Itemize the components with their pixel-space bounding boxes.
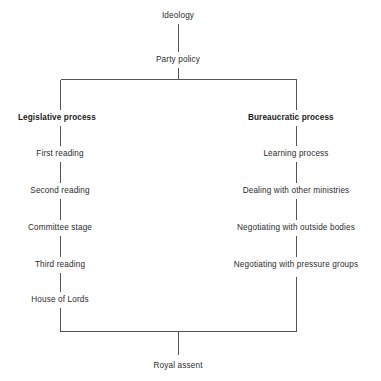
node-second-reading: Second reading — [30, 187, 89, 195]
node-ideology: Ideology — [162, 12, 194, 20]
flowchart-diagram: Ideology Party policy Legislative proces… — [0, 0, 381, 381]
node-bureaucratic-process-heading: Bureaucratic process — [248, 114, 334, 122]
node-negotiating-with-pressure-groups: Negotiating with pressure groups — [234, 261, 359, 269]
node-house-of-lords: House of Lords — [31, 296, 89, 304]
node-first-reading: First reading — [36, 150, 83, 158]
node-negotiating-with-outside-bodies: Negotiating with outside bodies — [237, 224, 355, 232]
node-party-policy: Party policy — [156, 56, 200, 64]
node-dealing-with-other-ministries: Dealing with other ministries — [243, 187, 350, 195]
node-committee-stage: Committee stage — [28, 224, 92, 232]
node-royal-assent: Royal assent — [153, 362, 202, 370]
node-legislative-process-heading: Legislative process — [18, 114, 96, 122]
node-third-reading: Third reading — [35, 261, 85, 269]
node-learning-process: Learning process — [263, 150, 328, 158]
